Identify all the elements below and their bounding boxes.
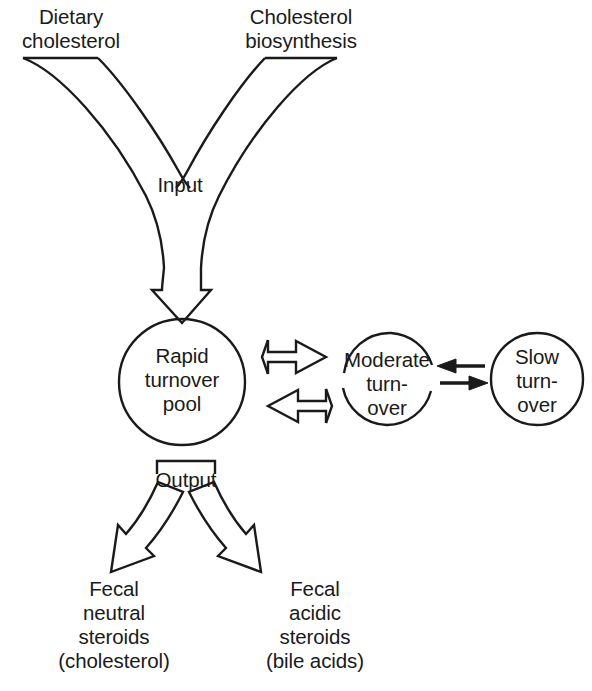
biosynthesis-stream-outer-edge [201,58,337,268]
output-left-block-arrow [111,482,183,572]
dietary-stream-inner-edge [98,58,190,188]
pool-to-moderate-arrow-back [262,340,268,374]
label-moderate-turnover: Moderate turn- over [327,348,447,420]
label-input: Input [120,173,240,197]
label-output: Output [126,468,246,492]
cholesterol-turnover-diagram: Dietary cholesterol Cholesterol biosynth… [0,0,592,691]
label-slow-turnover: Slow turn- over [492,345,582,417]
label-fecal-acidic-steroids: Fecal acidic steroids (bile acids) [209,577,421,673]
label-cholesterol-biosynthesis: Cholesterol biosynthesis [222,5,380,53]
pool-to-moderate-arrow [268,340,326,374]
output-right-block-arrow [189,482,261,572]
label-dietary-cholesterol: Dietary cholesterol [0,5,142,53]
label-rapid-turnover-pool: Rapid turnover pool [121,344,243,416]
input-block-arrow [152,268,211,323]
label-fecal-neutral-steroids: Fecal neutral steroids (cholesterol) [8,577,220,673]
biosynthesis-stream-inner-edge [176,58,265,188]
dietary-stream-outer-edge [23,58,164,268]
moderate-to-pool-arrow [268,389,326,423]
moderate-to-slow-arrow [440,376,488,390]
